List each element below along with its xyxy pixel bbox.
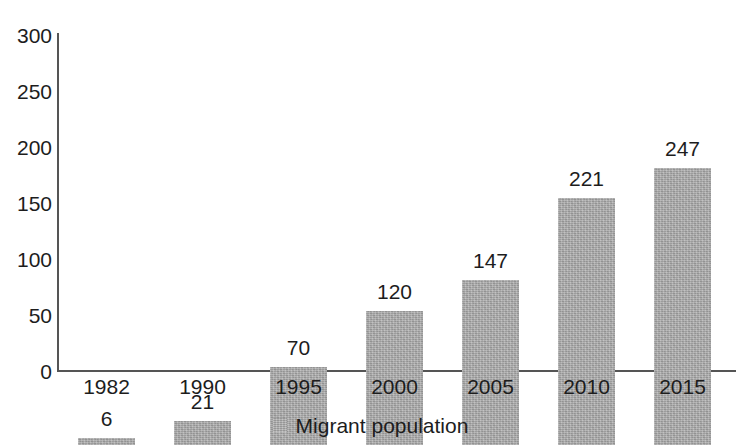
legend-label-migrant-population: Migrant population [296, 415, 469, 436]
bar-value-2000: 120 [366, 281, 423, 302]
legend-item-migrant-population[interactable]: Migrant population [273, 415, 469, 436]
bar-2010[interactable] [558, 198, 615, 445]
chart-legend: Migrant population [0, 410, 741, 440]
x-tick-label-2010: 2010 [558, 375, 615, 399]
x-tick-label-1990: 1990 [174, 375, 231, 399]
x-tick-label-1995: 1995 [270, 375, 327, 399]
bar-value-2005: 147 [462, 250, 519, 271]
x-tick-label-2005: 2005 [462, 375, 519, 399]
x-tick-label-2000: 2000 [366, 375, 423, 399]
x-tick-label-2015: 2015 [654, 375, 711, 399]
bar-chart: 300 250 200 150 100 50 0 6 21 70 120 147 [0, 0, 741, 445]
bar-value-2010: 221 [558, 168, 615, 189]
bar-2015[interactable] [654, 168, 711, 445]
x-tick-label-1982: 1982 [78, 375, 135, 399]
bar-value-1995: 70 [270, 337, 327, 358]
bar-value-2015: 247 [654, 138, 711, 159]
legend-swatch-icon [273, 418, 287, 432]
